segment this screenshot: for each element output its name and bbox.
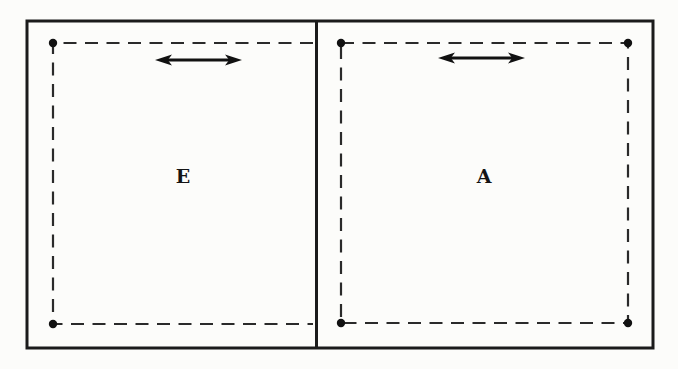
corner-dot-bottom-right <box>624 319 632 327</box>
two-chamber-diagram: E A <box>0 0 678 369</box>
panel-label-left: E <box>176 165 190 187</box>
corner-dot-top-right <box>624 39 632 47</box>
corner-dot-bottom-left <box>337 319 345 327</box>
corner-dot-top-left <box>337 39 345 47</box>
paper-background <box>0 0 678 369</box>
figure: E A <box>0 0 678 369</box>
panel-label-right: A <box>476 165 492 187</box>
corner-dot-bottom-left <box>49 320 57 328</box>
corner-dot-top-left <box>49 39 57 47</box>
